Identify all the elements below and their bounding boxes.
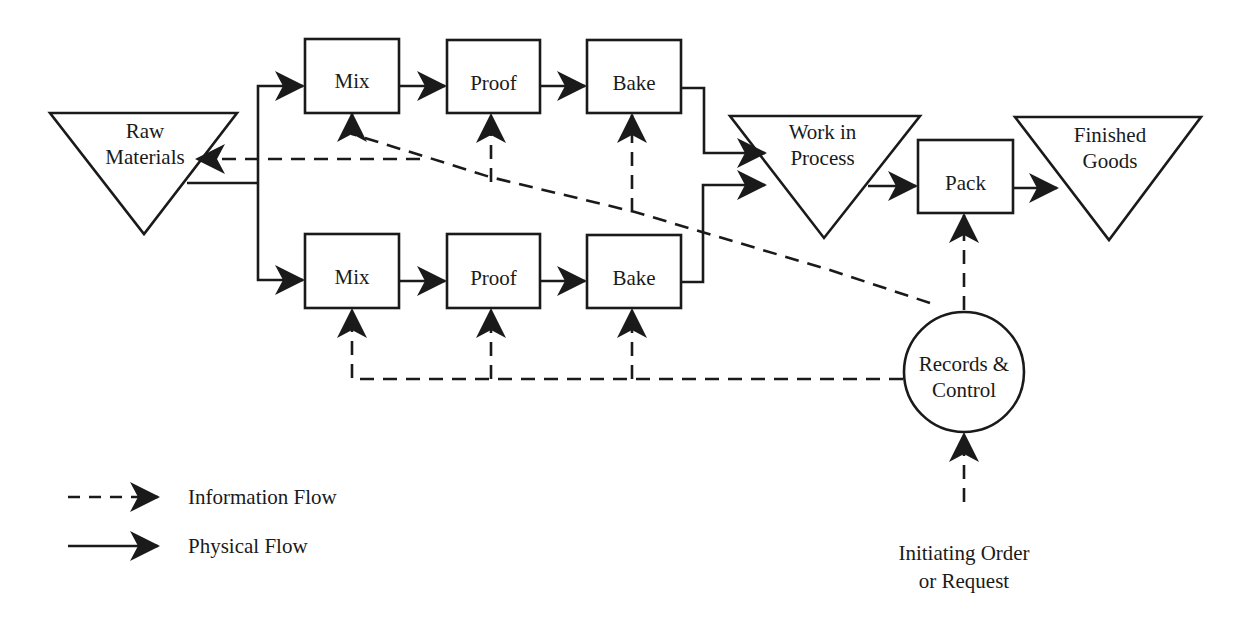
initiating-order-line1: Initiating Order bbox=[884, 539, 1044, 567]
raw-materials-line2: Materials bbox=[80, 144, 210, 170]
mix-top-label: Mix bbox=[305, 68, 399, 94]
physical-flow-split-to-mix-bottom bbox=[258, 183, 303, 280]
work-in-process-label: Work in Process bbox=[755, 119, 890, 171]
records-control-line1: Records & bbox=[894, 351, 1034, 377]
legend-information-flow-label: Information Flow bbox=[188, 484, 337, 510]
raw-materials-line1: Raw bbox=[80, 118, 210, 144]
raw-materials-label: Raw Materials bbox=[80, 118, 210, 170]
physical-flow-bake-bottom-to-wip bbox=[681, 185, 765, 282]
mix-bottom-label: Mix bbox=[305, 264, 399, 290]
finished-goods-line1: Finished bbox=[1045, 122, 1175, 148]
initiating-order-label: Initiating Order or Request bbox=[884, 539, 1044, 595]
proof-top-label: Proof bbox=[447, 70, 540, 96]
bake-bottom-label: Bake bbox=[587, 265, 681, 291]
pack-label: Pack bbox=[918, 170, 1013, 196]
records-control-line2: Control bbox=[894, 377, 1034, 403]
initiating-order-line2: or Request bbox=[884, 567, 1044, 595]
proof-bottom-label: Proof bbox=[447, 265, 540, 291]
finished-goods-line2: Goods bbox=[1045, 148, 1175, 174]
wip-line1: Work in bbox=[755, 119, 890, 145]
info-flow-records-to-bottom-row bbox=[352, 310, 903, 379]
legend-physical-flow-label: Physical Flow bbox=[188, 533, 308, 559]
wip-line2: Process bbox=[755, 145, 890, 171]
bake-top-label: Bake bbox=[587, 70, 681, 96]
physical-flow-split-to-mix-top bbox=[258, 86, 303, 183]
records-control-label: Records & Control bbox=[894, 351, 1034, 403]
finished-goods-label: Finished Goods bbox=[1045, 122, 1175, 174]
